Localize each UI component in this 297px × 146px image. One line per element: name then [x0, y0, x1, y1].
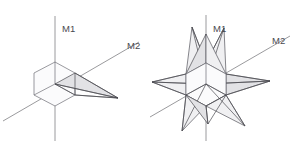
right-axis-m2-label: M2 [272, 35, 285, 46]
left-axis-m1-label: M1 [62, 23, 75, 34]
left-panel-single-spike-figure: M1 M2 [3, 16, 140, 141]
left-axis-m2-label: M2 [127, 40, 140, 51]
right-axis-m1-label: M1 [213, 23, 226, 34]
two-panel-3d-shape-diagram: M1 M2 [0, 0, 297, 146]
right-panel-eight-spike-star-figure: M1 M2 [150, 15, 290, 141]
right-spike-left-face-a [152, 74, 186, 95]
